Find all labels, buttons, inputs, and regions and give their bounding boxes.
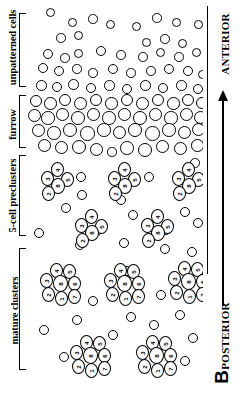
furrow-cell [182, 94, 194, 106]
furrow-cell [30, 95, 42, 107]
unpatterned-cell [138, 52, 148, 62]
precluster-cell-2: 2 [142, 233, 155, 248]
unpatterned-cell [146, 66, 156, 76]
mature-cell-8: 8 [53, 275, 68, 292]
interommatidial-cell [61, 203, 71, 213]
unpatterned-cell [194, 20, 203, 29]
region-label-unpatterned-cells: unpatterned cells [7, 4, 18, 92]
mature-cell-2: 2 [106, 287, 119, 302]
unpatterned-cell [43, 49, 53, 59]
precluster-cell-2: 2 [109, 186, 122, 201]
interommatidial-cell [180, 207, 190, 217]
axis-label-anterior: ANTERIOR [219, 9, 231, 79]
unpatterned-cell [140, 80, 151, 91]
panel-label: B [211, 370, 233, 384]
precluster-cell-2: 2 [42, 186, 55, 201]
mature-cell-7: 7 [68, 289, 81, 304]
furrow-cell [121, 94, 133, 106]
furrow-cell [174, 142, 187, 155]
bracket-furrow [19, 95, 26, 148]
mature-cell-1: 1 [119, 291, 132, 306]
furrow-cell [72, 140, 86, 154]
furrow-cell [80, 126, 95, 141]
mature-cell-8: 8 [149, 347, 164, 364]
furrow-cell [156, 140, 169, 153]
unpatterned-cell [126, 68, 136, 78]
furrow-cell [145, 126, 160, 141]
region-label-mature-clusters: mature clusters [9, 265, 20, 357]
unpatterned-cell [74, 31, 83, 40]
furrow-cell [191, 139, 203, 152]
unpatterned-cell [60, 53, 70, 63]
furrow-cell [138, 143, 152, 157]
region-label-text: 5-cell preclusters [7, 158, 18, 232]
interommatidial-cell [88, 296, 98, 306]
mature-cell-7: 7 [132, 289, 145, 304]
axis-arrow-shaft [222, 98, 224, 306]
unpatterned-cell [88, 68, 98, 78]
unpatterned-cell [36, 80, 47, 91]
furrow-cell [97, 123, 111, 137]
furrow-cell [59, 94, 71, 106]
unpatterned-cell [86, 83, 96, 93]
furrow-cell [87, 108, 100, 121]
furrow-cell [47, 126, 61, 140]
unpatterned-cell [106, 20, 115, 29]
unpatterned-cell [142, 38, 151, 47]
furrow-cell [178, 126, 191, 139]
interommatidial-cell [126, 312, 136, 322]
unpatterned-cell [56, 33, 66, 43]
interommatidial-cell [160, 244, 170, 254]
interommatidial-cell [128, 210, 138, 220]
mature-cell-2: 2 [138, 359, 151, 374]
furrow-cell [90, 143, 103, 156]
unpatterned-cell [172, 18, 181, 27]
mature-cell-7: 7 [196, 287, 203, 302]
unpatterned-cell [52, 82, 62, 92]
interommatidial-cell [34, 228, 44, 238]
interommatidial-cell [180, 356, 190, 366]
furrow-cell [41, 111, 55, 125]
interommatidial-cell [77, 190, 87, 200]
unpatterned-cell [176, 80, 187, 91]
interommatidial-cell [149, 320, 159, 330]
furrow-cell [28, 109, 41, 122]
mature-cell-3: 3 [70, 345, 83, 360]
mature-cell-8: 8 [117, 275, 132, 292]
mature-cell-8: 8 [83, 347, 98, 364]
unpatterned-cell [46, 8, 55, 17]
furrow-cell [192, 123, 203, 136]
furrow-cell [113, 126, 126, 139]
furrow-cell [128, 123, 142, 137]
mature-cell-1: 1 [151, 363, 164, 378]
furrow-cell [120, 141, 134, 155]
region-label-5-cell-preclusters: 5-cell preclusters [7, 147, 18, 245]
mature-cell-2: 2 [72, 359, 85, 374]
unpatterned-cell [108, 64, 118, 74]
unpatterned-cell [122, 84, 132, 94]
bracket-mature-clusters [19, 248, 26, 370]
mature-cell-1: 1 [55, 291, 68, 306]
unpatterned-cell [156, 48, 165, 57]
interommatidial-cell [193, 218, 203, 228]
mature-cell-2: 2 [170, 285, 183, 300]
unpatterned-cell [178, 39, 187, 48]
unpatterned-cell [72, 64, 82, 74]
region-label-furrow: furrow [7, 99, 18, 151]
unpatterned-cell [193, 84, 203, 94]
furrow-cell [180, 108, 193, 121]
mature-cell-1: 1 [85, 363, 98, 378]
precluster-cell-2: 2 [76, 233, 89, 248]
furrow-cell [118, 108, 131, 121]
interommatidial-cell [72, 315, 82, 325]
unpatterned-cell [68, 18, 77, 27]
interommatidial-cell [144, 172, 154, 182]
mature-cell-3: 3 [40, 273, 53, 288]
axis-label-text: POSTERIOR [219, 302, 231, 370]
figure-panel-b: unpatterned cells furrow 5-cell preclust… [0, 0, 245, 401]
unpatterned-cell [164, 64, 174, 74]
axis-label-text: ANTERIOR [219, 13, 231, 75]
mature-cell-3: 3 [168, 271, 181, 286]
furrow-cell [90, 94, 102, 106]
furrow-cell [74, 97, 87, 110]
